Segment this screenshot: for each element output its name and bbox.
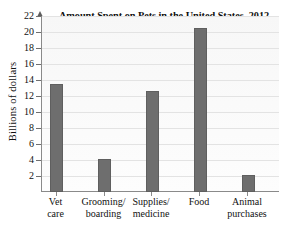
y-axis-tick (36, 112, 41, 113)
x-axis-category-line: purchases (215, 208, 279, 220)
y-axis-tick-label: 4 (14, 155, 34, 165)
x-axis-category-line: Animal (215, 196, 279, 208)
bar (50, 84, 63, 192)
x-axis-category-line: medicine (119, 208, 183, 220)
y-axis-tick (36, 32, 41, 33)
gridline (42, 96, 279, 97)
y-axis-tick (36, 144, 41, 145)
gridline (42, 112, 279, 113)
y-axis-tick-label: 16 (14, 59, 34, 69)
plot-area (41, 16, 279, 192)
y-axis-tick-label: 14 (14, 75, 34, 85)
gridline (42, 16, 279, 17)
y-axis-tick-label: 12 (14, 91, 34, 101)
y-axis-tick (36, 160, 41, 161)
y-axis-tick-label: 20 (14, 27, 34, 37)
y-axis-tick-label: 8 (14, 123, 34, 133)
bar-chart-figure: Billions of dollars Amount Spent on Pets… (0, 0, 285, 226)
y-axis-tick-label: 18 (14, 43, 34, 53)
bar (98, 159, 111, 192)
y-axis-tick (36, 128, 41, 129)
gridline (42, 32, 279, 33)
bar (146, 91, 159, 192)
gridline (42, 128, 279, 129)
y-axis-tick-label: 10 (14, 107, 34, 117)
y-axis-tick-label: 6 (14, 139, 34, 149)
y-axis-tick (36, 48, 41, 49)
x-axis-category-label: Animalpurchases (215, 196, 279, 219)
gridline (42, 64, 279, 65)
gridlines (42, 16, 279, 191)
y-axis-tick (36, 96, 41, 97)
y-axis-tick-label: 22 (14, 11, 34, 21)
y-axis-tick (36, 16, 41, 17)
y-axis-tick-label: 2 (14, 171, 34, 181)
y-axis-tick (36, 176, 41, 177)
y-axis-tick (36, 64, 41, 65)
gridline (42, 48, 279, 49)
gridline (42, 144, 279, 145)
bar (194, 28, 207, 192)
gridline (42, 160, 279, 161)
bar (242, 175, 255, 192)
y-axis-tick (36, 80, 41, 81)
gridline (42, 80, 279, 81)
